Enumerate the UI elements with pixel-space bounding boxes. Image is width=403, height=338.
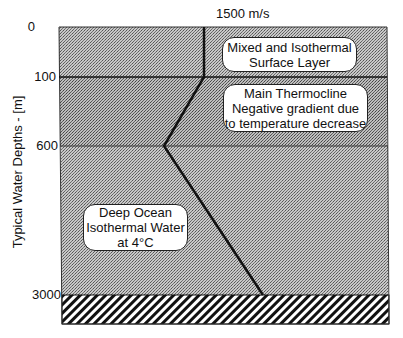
- sound-speed-label: 1500 m/s: [216, 6, 269, 21]
- callout-line: Surface Layer: [223, 55, 356, 70]
- callout-line: at 4°C: [84, 235, 187, 250]
- depth-tick-3000: 3000: [0, 287, 61, 302]
- callout-line: Isothermal Water: [84, 220, 187, 235]
- depth-tick-0: 0: [0, 19, 35, 34]
- callout-line: Main Thermocline: [224, 86, 367, 101]
- callout-line: to temperature decrease: [224, 116, 367, 131]
- callout-thermocline: Main Thermocline Negative gradient due t…: [223, 84, 368, 132]
- callout-surface-layer: Mixed and Isothermal Surface Layer: [222, 37, 357, 72]
- callout-line: Negative gradient due: [224, 101, 367, 116]
- depth-tick-100: 100: [0, 69, 56, 84]
- callout-line: Mixed and Isothermal: [223, 40, 356, 55]
- callout-deep-ocean: Deep Ocean Isothermal Water at 4°C: [83, 204, 188, 251]
- callout-line: Deep Ocean: [84, 205, 187, 220]
- seabed-hatch: [62, 295, 389, 324]
- y-axis-label: Typical Water Depths - [m]: [10, 96, 25, 249]
